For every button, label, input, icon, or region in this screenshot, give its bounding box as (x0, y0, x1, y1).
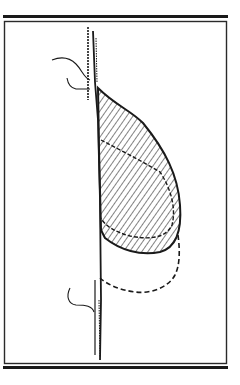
bottom-rule (3, 366, 228, 369)
upper-skin-curve-2 (67, 78, 90, 89)
lower-skin-curve (68, 288, 94, 312)
diagram-canvas (0, 0, 240, 385)
chest-wall-line (88, 27, 101, 360)
hatched-breast-region (98, 88, 180, 253)
top-rule (3, 15, 228, 18)
upper-skin-curve (52, 58, 90, 80)
